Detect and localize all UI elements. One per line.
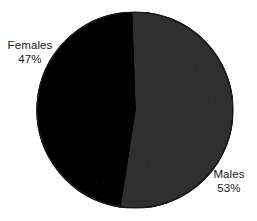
pie-label-females: Females 47% xyxy=(2,38,58,66)
pie-label-females-name: Females xyxy=(2,38,58,52)
pie-label-males-value: 53% xyxy=(203,181,255,195)
pie-chart: Females 47% Males 53% xyxy=(0,0,257,221)
pie-label-females-value: 47% xyxy=(2,52,58,66)
pie-label-males-name: Males xyxy=(203,167,255,181)
pie-label-males: Males 53% xyxy=(203,167,255,195)
